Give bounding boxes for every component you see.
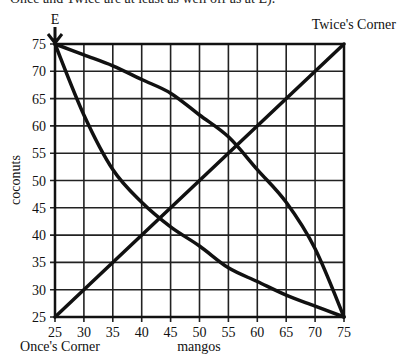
x-axis-label: mangos [177,339,221,354]
e-label: E [51,12,60,27]
x-tick-label: 50 [193,325,207,340]
y-tick-label: 60 [32,119,46,134]
x-tick-label: 35 [106,325,120,340]
x-tick-label: 75 [337,325,351,340]
x-tick-label: 65 [279,325,293,340]
x-tick-label: 70 [308,325,322,340]
y-tick-label: 30 [32,283,46,298]
x-tick-label: 25 [48,325,62,340]
y-tick-label: 35 [32,255,46,270]
down-arrow-icon [48,27,62,43]
y-axis-label: coconuts [8,155,23,205]
x-tick-label: 55 [221,325,235,340]
y-axis-ticks: 2530354045505560657075 [32,37,46,325]
x-tick-label: 30 [77,325,91,340]
edgeworth-box-chart: 2530354045505560657075 25303540455055606… [0,0,402,363]
x-tick-label: 45 [164,325,178,340]
y-tick-label: 25 [32,310,46,325]
y-tick-label: 55 [32,146,46,161]
twices-corner-label: Twice's Corner [312,17,397,32]
y-tick-label: 50 [32,174,46,189]
x-tick-label: 60 [250,325,264,340]
y-tick-label: 70 [32,64,46,79]
e-marker: E [48,12,62,43]
y-tick-label: 75 [32,37,46,52]
y-tick-label: 45 [32,201,46,216]
onces-corner-label: Once's Corner [20,339,100,354]
x-axis-ticks: 2530354045505560657075 [48,325,351,340]
x-tick-label: 40 [135,325,149,340]
y-tick-label: 65 [32,92,46,107]
y-tick-label: 40 [32,228,46,243]
